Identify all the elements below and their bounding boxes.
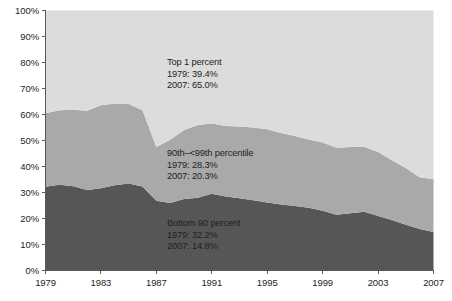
y-tick-label: 90% xyxy=(3,31,39,42)
annotation-value-row: 2007: 20.3% xyxy=(167,171,254,183)
y-tick-label: 50% xyxy=(3,135,39,146)
annotation-top-1-percent: Top 1 percent1979: 39.4%2007: 65.0% xyxy=(167,57,221,92)
stacked-area-chart: 0%10%20%30%40%50%60%70%80%90%100% 197919… xyxy=(0,0,452,301)
annotation-bottom-90-percent: Bottom 90 percent1979: 32.2%2007: 14.8% xyxy=(167,218,240,253)
x-tick-label: 1999 xyxy=(303,277,343,288)
y-tick-label: 40% xyxy=(3,161,39,172)
y-tick-label: 10% xyxy=(3,239,39,250)
x-tick-label: 1983 xyxy=(81,277,121,288)
y-tick-label: 100% xyxy=(3,5,39,16)
y-tick-label: 20% xyxy=(3,213,39,224)
x-tick-label: 2003 xyxy=(358,277,398,288)
annotation-value-row: 1979: 32.2% xyxy=(167,230,240,242)
y-tick-label: 70% xyxy=(3,83,39,94)
annotation-value-row: 1979: 28.3% xyxy=(167,160,254,172)
annotation-90th-99th-percentile: 90th–<99th percentile1979: 28.3%2007: 20… xyxy=(167,148,254,183)
y-tick-label: 30% xyxy=(3,187,39,198)
x-tick-label: 1987 xyxy=(136,277,176,288)
x-tick-label: 1991 xyxy=(192,277,232,288)
y-tick-label: 80% xyxy=(3,57,39,68)
annotation-title: Bottom 90 percent xyxy=(167,218,240,230)
annotation-value-row: 1979: 39.4% xyxy=(167,69,221,81)
x-tick-label: 2007 xyxy=(414,277,452,288)
y-tick-label: 60% xyxy=(3,109,39,120)
x-tick-label: 1979 xyxy=(26,277,66,288)
x-tick-label: 1995 xyxy=(247,277,287,288)
annotation-title: Top 1 percent xyxy=(167,57,221,69)
y-tick-label: 0% xyxy=(3,265,39,276)
annotation-value-row: 2007: 65.0% xyxy=(167,80,221,92)
annotation-title: 90th–<99th percentile xyxy=(167,148,254,160)
annotation-value-row: 2007: 14.8% xyxy=(167,241,240,253)
